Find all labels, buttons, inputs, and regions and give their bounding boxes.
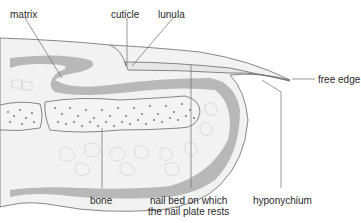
label-cuticle: cuticle bbox=[111, 9, 139, 20]
label-nail-bed-line1: nail bed on which bbox=[148, 195, 229, 206]
label-free-edge: free edge bbox=[318, 74, 360, 85]
label-lunula: lunula bbox=[158, 9, 185, 20]
label-bone: bone bbox=[90, 195, 112, 206]
nail-cross-section-diagram bbox=[0, 0, 361, 223]
label-nail-bed: nail bed on which the nail plate rests bbox=[148, 195, 229, 217]
label-nail-bed-line2: the nail plate rests bbox=[148, 206, 229, 217]
label-matrix: matrix bbox=[10, 9, 37, 20]
label-hyponychium: hyponychium bbox=[253, 195, 312, 206]
